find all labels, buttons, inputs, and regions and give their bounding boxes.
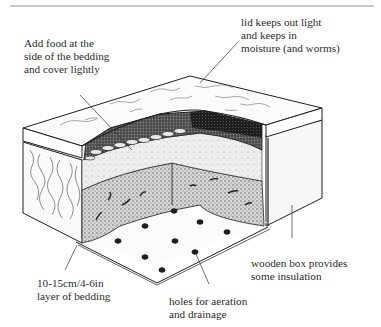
label-bedding: 10-15cm/4-6in layer of bedding bbox=[37, 277, 110, 303]
hole-9 bbox=[159, 268, 165, 272]
hole-8 bbox=[192, 250, 198, 254]
leader-holes bbox=[196, 254, 209, 284]
label-holes: holes for aeration and drainage bbox=[169, 295, 247, 321]
hole-3 bbox=[197, 220, 203, 224]
hole-2 bbox=[142, 224, 148, 228]
hole-5 bbox=[115, 239, 121, 243]
label-add-food: Add food at the side of the bedding and … bbox=[24, 37, 109, 77]
box-right-side bbox=[266, 120, 322, 226]
hole-6 bbox=[172, 239, 178, 243]
hole-1 bbox=[171, 209, 177, 213]
hole-4 bbox=[224, 230, 230, 234]
label-wooden-box: wooden box provides some insulation bbox=[251, 257, 347, 283]
label-lid: lid keeps out light and keeps in moistur… bbox=[241, 16, 340, 56]
leader-bedding bbox=[65, 245, 77, 270]
box-left-side bbox=[23, 142, 82, 243]
leader-lid bbox=[200, 42, 238, 83]
hole-7 bbox=[142, 255, 148, 259]
